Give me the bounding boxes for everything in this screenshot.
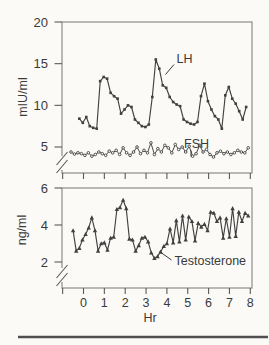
lh-point <box>130 106 133 109</box>
testosterone-point <box>143 235 147 239</box>
fsh-point <box>94 153 97 156</box>
top-chart-series <box>70 58 250 158</box>
lh-point <box>217 118 220 121</box>
fsh-label: FSH <box>184 137 209 151</box>
testosterone-point <box>90 215 94 219</box>
lh-point <box>214 115 217 118</box>
fsh-point <box>153 153 156 156</box>
testosterone-point <box>87 225 91 229</box>
lh-annotation: LH <box>166 52 193 75</box>
fsh-point <box>191 155 194 158</box>
testosterone-point <box>112 235 116 239</box>
fsh-point <box>122 147 125 150</box>
lh-point <box>148 123 151 126</box>
testosterone-point <box>71 228 75 232</box>
testosterone-point <box>149 250 153 254</box>
y-tick-label: 6 <box>41 181 48 196</box>
fsh-point <box>129 154 132 157</box>
lh-point <box>123 108 126 111</box>
testosterone-point <box>118 205 122 209</box>
lh-point <box>193 123 196 126</box>
testosterone-point <box>121 198 125 202</box>
testosterone-annotation: Testosterone <box>160 252 247 269</box>
x-tick-label: 3 <box>143 296 150 310</box>
fsh-point <box>184 151 187 154</box>
lh-point <box>82 122 85 125</box>
lh-markers <box>78 58 247 130</box>
lh-point <box>231 97 234 100</box>
lh-point <box>116 97 119 100</box>
lh-point <box>99 80 102 83</box>
fsh-point <box>240 151 243 154</box>
lh-point <box>134 118 137 121</box>
fsh-point <box>230 153 233 156</box>
y-tick-label: 5 <box>41 139 48 154</box>
testosterone-leader-line <box>160 252 172 261</box>
testosterone-point <box>124 206 128 210</box>
fsh-point <box>111 152 114 155</box>
testosterone-point <box>168 226 172 230</box>
testosterone-point <box>102 240 106 244</box>
testosterone-point <box>183 238 187 242</box>
lh-point <box>189 122 192 125</box>
testosterone-point <box>127 237 131 241</box>
testosterone-point <box>234 234 238 238</box>
lh-point <box>109 92 112 95</box>
testosterone-point <box>218 215 222 219</box>
fsh-point <box>237 149 240 152</box>
top-chart-x-ticks <box>63 173 251 179</box>
lh-point <box>141 125 144 128</box>
lh-point <box>227 86 230 89</box>
lh-point <box>161 84 164 87</box>
fsh-point <box>125 152 128 155</box>
testosterone-point <box>205 228 209 232</box>
bottom-chart-x-tick-labels: 012345678 <box>80 296 254 310</box>
lh-point <box>224 94 227 97</box>
testosterone-point <box>243 211 247 215</box>
testosterone-point <box>224 216 228 220</box>
testosterone-label: Testosterone <box>175 254 247 268</box>
lh-point <box>221 127 224 130</box>
x-tick-label: 7 <box>226 296 233 310</box>
y-tick-label: 20 <box>34 15 48 30</box>
fsh-point <box>115 149 118 152</box>
fsh-point <box>108 150 111 153</box>
lh-point <box>238 110 241 113</box>
testosterone-point <box>171 240 175 244</box>
lh-point <box>113 95 116 98</box>
fsh-point <box>247 147 250 150</box>
fsh-point <box>174 143 177 146</box>
fsh-point <box>132 151 135 154</box>
fsh-point <box>209 153 212 156</box>
lh-point <box>151 96 154 99</box>
fsh-point <box>202 151 205 154</box>
lh-point <box>200 95 203 98</box>
lh-point <box>207 100 210 103</box>
lh-point <box>127 104 130 107</box>
fsh-point <box>212 156 215 159</box>
fsh-point <box>243 152 246 155</box>
fsh-point <box>70 151 73 154</box>
fsh-point <box>233 152 236 155</box>
lh-point <box>102 76 105 79</box>
bottom-chart-y-ticks: 642 <box>41 181 62 270</box>
lh-leader-line <box>166 65 175 75</box>
x-tick-label: 2 <box>122 296 129 310</box>
fsh-point <box>146 152 149 155</box>
fsh-point <box>164 144 167 147</box>
x-tick-label: 8 <box>247 296 254 310</box>
lh-point <box>241 118 244 121</box>
x-tick-label: 6 <box>205 296 212 310</box>
testosterone-point <box>165 241 169 245</box>
top-chart: 2015105 mIU/ml LH FSH <box>16 15 252 180</box>
y-tick-label: 4 <box>41 218 48 233</box>
testosterone-point <box>227 235 231 239</box>
testosterone-point <box>221 236 225 240</box>
fsh-point <box>101 152 104 155</box>
testosterone-point <box>93 228 97 232</box>
testosterone-markers <box>71 198 251 260</box>
testosterone-point <box>187 214 191 218</box>
figure-page: 2015105 mIU/ml LH FSH 642 012345678 <box>0 0 269 345</box>
lh-point <box>179 105 182 108</box>
testosterone-point <box>240 219 244 223</box>
